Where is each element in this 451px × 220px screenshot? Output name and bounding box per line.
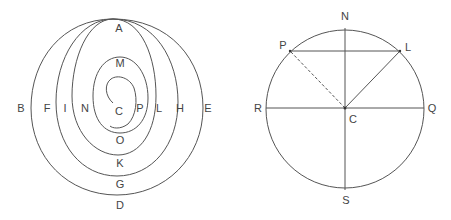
point-l [399,50,401,52]
label-i: I [63,102,66,114]
label-p: P [136,102,143,114]
center-point [344,107,347,110]
label-c: C [115,105,123,117]
spiral-to-c [106,77,136,128]
diagram-canvas: A M C O K G D B F I N P L H E N S R Q P … [0,0,451,220]
left-figure: A M C O K G D B F I N P L H E [17,19,211,211]
curve-ilk [72,19,156,155]
label-h: H [176,102,184,114]
label-n: N [81,102,89,114]
label-s: S [342,194,349,206]
label-k: K [116,157,124,169]
label-r: R [254,102,262,114]
curve-fhg [56,19,178,176]
label-m: M [115,57,124,69]
label-l-right: L [405,41,411,53]
label-q: Q [428,102,437,114]
label-f: F [44,102,51,114]
radius-cl [345,51,400,108]
label-g: G [116,178,125,190]
label-a: A [115,22,123,34]
radius-cp-dashed [290,51,345,108]
label-o: O [116,134,125,146]
label-n-right: N [341,10,349,22]
label-p-right: P [279,39,286,51]
label-l: L [156,102,162,114]
label-b: B [17,102,24,114]
label-e: E [204,102,211,114]
right-figure: N S R Q P L C [254,10,437,206]
label-c-right: C [349,113,357,125]
label-d: D [116,199,124,211]
point-p [289,50,291,52]
